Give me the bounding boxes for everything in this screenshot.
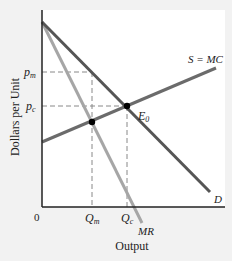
- mr-label: MR: [137, 225, 154, 237]
- demand-label: D: [213, 193, 222, 205]
- pm-label: pm: [23, 65, 36, 80]
- monopoly-point: [89, 119, 95, 125]
- qc-label: Qc: [121, 211, 134, 226]
- pc-label: pc: [25, 99, 36, 114]
- equilibrium-point: [124, 103, 130, 109]
- supply-mc-label: S = MC: [188, 53, 224, 65]
- x-axis-label: Output: [115, 239, 149, 253]
- monopoly-diagram: Dollars per Unit pm pc 0 Qm Qc S = MC D …: [0, 0, 232, 261]
- qm-label: Qm: [85, 211, 100, 226]
- origin-label: 0: [34, 211, 40, 223]
- y-axis-label: Dollars per Unit: [8, 77, 22, 156]
